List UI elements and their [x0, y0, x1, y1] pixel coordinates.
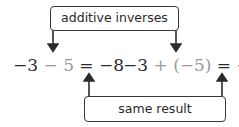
additive-inverses-box: additive inverses: [50, 6, 179, 31]
left-result: −8: [99, 55, 124, 75]
left-operand: 5: [63, 55, 74, 75]
right-first: −3: [123, 55, 148, 75]
left-first: −3: [13, 55, 38, 75]
right-op: +: [153, 55, 167, 75]
same-result-label: same result: [118, 101, 191, 116]
left-op: −: [43, 55, 57, 75]
left-equation: −3 − 5 = −8: [13, 55, 124, 75]
same-result-box: same result: [84, 96, 226, 122]
additive-inverses-label: additive inverses: [61, 10, 168, 25]
right-result: −8: [237, 55, 239, 75]
right-operand: (−5): [173, 55, 211, 75]
right-equation: −3 + (−5) = −8: [123, 55, 239, 75]
left-equals: =: [79, 55, 93, 75]
right-equals: =: [217, 55, 231, 75]
